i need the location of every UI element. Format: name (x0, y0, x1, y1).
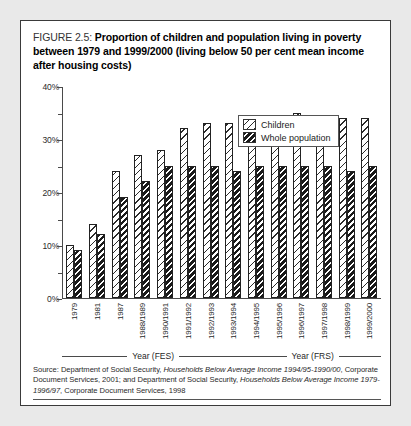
y-tick-mark (57, 87, 63, 88)
x-axis-tick-label: 1996/1997 (297, 303, 306, 339)
y-axis-labels: 0%10%20%30%40% (33, 87, 59, 299)
x-label-slot: 1988/1989 (133, 301, 151, 353)
y-tick-mark (57, 193, 63, 194)
bar-group (157, 87, 173, 298)
bar-group (203, 87, 219, 298)
source-text-3: , Corporate Document Services, 1998 (60, 386, 185, 395)
bar-children (248, 123, 256, 298)
x-label-slot: 1998/1999 (338, 301, 356, 353)
bar-group (361, 87, 377, 298)
bar-whole-population (301, 166, 309, 299)
bar-whole-population (142, 181, 150, 298)
y-tick-mark (58, 114, 62, 115)
bar-children (112, 171, 120, 298)
legend-swatch-whole-population-icon (243, 132, 256, 143)
bar-children (157, 150, 165, 298)
bar-children (89, 224, 97, 298)
bar-group (112, 87, 128, 298)
bar-children (203, 123, 211, 298)
bar-children (361, 118, 369, 298)
axis-group-label: Year (FES) (62, 351, 244, 361)
x-label-slot: 1981 (88, 301, 106, 353)
x-axis-tick-label: 1992/1993 (206, 303, 215, 339)
group-rule-left (244, 356, 286, 357)
bar-children (66, 245, 74, 298)
group-label-text: Year (FES) (131, 351, 175, 361)
x-axis-tick-label: 1993/1994 (229, 303, 238, 339)
x-axis-tick-label: 1990/1991 (161, 303, 170, 339)
bar-whole-population (120, 197, 128, 298)
chart-plot-area: Children Whole population 0%10%20%30%40%… (33, 87, 381, 359)
x-label-slot: 1992/1993 (202, 301, 220, 353)
legend-item-children: Children (243, 119, 331, 130)
bar-whole-population (188, 166, 196, 299)
source-text-1: Source: Department of Social Security, (33, 365, 163, 374)
bar-whole-population (256, 166, 264, 299)
group-rule-right (179, 356, 244, 357)
x-axis-tick-label: 1998/1999 (342, 303, 351, 339)
bar-group (134, 87, 150, 298)
x-axis-tick-label: 1997/1998 (320, 303, 329, 339)
x-label-slot: 1996/1997 (292, 301, 310, 353)
bar-whole-population (74, 250, 82, 298)
y-tick-mark (58, 220, 62, 221)
figure-number: FIGURE 2.5: (33, 31, 92, 43)
figure-container: FIGURE 2.5: Proportion of children and p… (20, 20, 391, 406)
bar-group (66, 87, 82, 298)
bar-children (180, 128, 188, 298)
chart-legend: Children Whole population (238, 115, 339, 147)
legend-swatch-children-icon (243, 119, 256, 130)
x-label-slot: 1993/1994 (224, 301, 242, 353)
x-label-slot: 1997/1998 (315, 301, 333, 353)
x-label-slot: 1991/1992 (179, 301, 197, 353)
x-axis-tick-label: 1995/1996 (274, 303, 283, 339)
legend-item-whole-population: Whole population (243, 132, 331, 143)
y-tick-mark (57, 140, 63, 141)
x-label-slot: 1990/1991 (156, 301, 174, 353)
x-axis-tick-label: 1981 (93, 303, 102, 320)
group-rule-right (339, 356, 381, 357)
bar-children (134, 155, 142, 298)
y-tick-mark (57, 299, 63, 300)
bar-whole-population (279, 166, 287, 299)
x-axis-tick-labels: 1979198119871988/19891990/19911991/19921… (63, 301, 381, 353)
x-label-slot: 1995/1996 (270, 301, 288, 353)
source-italic-1: Households Below Average Income 1994/95-… (163, 365, 340, 374)
bar-whole-population (211, 166, 219, 299)
x-axis-tick-label: 1979 (70, 303, 79, 320)
x-label-slot: 1979 (65, 301, 83, 353)
source-note: Source: Department of Social Security, H… (33, 365, 381, 396)
bar-group (89, 87, 105, 298)
bar-group (180, 87, 196, 298)
bar-children (225, 123, 233, 298)
legend-label-children: Children (261, 120, 295, 130)
y-tick-mark (57, 246, 63, 247)
group-rule-left (62, 356, 127, 357)
x-axis-group-labels: Year (FES)Year (FRS) (62, 351, 381, 361)
legend-label-whole-population: Whole population (261, 133, 331, 143)
y-tick-mark (58, 167, 62, 168)
bar-whole-population (369, 166, 377, 299)
bar-whole-population (324, 166, 332, 299)
x-axis-tick-label: 1988/1989 (138, 303, 147, 339)
x-axis-tick-label: 1999/2000 (365, 303, 374, 339)
footer-divider (33, 399, 381, 400)
bar-children (339, 118, 347, 298)
x-label-slot: 1999/2000 (360, 301, 378, 353)
x-axis-tick-label: 1994/1995 (251, 303, 260, 339)
group-label-text: Year (FRS) (291, 351, 335, 361)
bar-whole-population (165, 166, 173, 299)
bar-whole-population (233, 171, 241, 298)
x-axis-tick-label: 1987 (115, 303, 124, 320)
x-label-slot: 1987 (111, 301, 129, 353)
figure-caption: FIGURE 2.5: Proportion of children and p… (33, 30, 381, 72)
x-axis-tick-label: 1991/1992 (183, 303, 192, 339)
x-label-slot: 1994/1995 (247, 301, 265, 353)
bar-whole-population (97, 234, 105, 298)
bar-group (339, 87, 355, 298)
bar-whole-population (347, 171, 355, 298)
axis-group-label: Year (FRS) (244, 351, 381, 361)
y-tick-mark (58, 273, 62, 274)
